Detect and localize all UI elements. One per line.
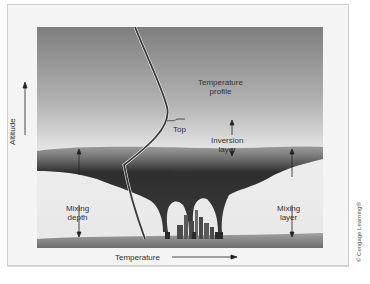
mixing-layer-label-line1: Mixing [277, 204, 300, 213]
mixing-depth-label: Mixing depth [66, 204, 89, 222]
temperature-axis-label: Temperature [115, 253, 160, 262]
temperature-profile-label: Temperature profile [198, 78, 243, 96]
mixing-depth-label-line1: Mixing [66, 204, 89, 213]
mixing-layer-label: Mixing layer [277, 204, 300, 222]
top-label: Top [173, 125, 186, 134]
inversion-layer-label-line1: Inversion [211, 136, 243, 145]
inversion-layer-label: Inversion layer [211, 136, 243, 154]
copyright-credit: © Cengage Learning® [356, 202, 362, 262]
altitude-axis-label: Altitude [8, 118, 17, 145]
temperature-profile-label-line2: profile [198, 87, 243, 96]
inversion-layer-label-line2: layer [211, 145, 243, 154]
base-label: Base [174, 169, 192, 178]
mixing-depth-label-line2: depth [66, 213, 89, 222]
temperature-profile-label-line1: Temperature [198, 78, 243, 87]
mixing-layer-label-line2: layer [277, 213, 300, 222]
